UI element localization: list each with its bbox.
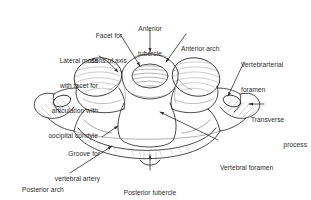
label-line: foramen: [241, 86, 309, 94]
label-line: Vertebrarterial: [241, 61, 309, 69]
label-line: Anterior: [126, 25, 174, 33]
label-posterior-tubercle: Posterior tubercle: [113, 172, 187, 200]
label-line: articulation with: [6, 107, 98, 115]
label-vertebral-foramen: Vertebral foramen: [220, 147, 296, 189]
label-line: Posterior arch: [22, 186, 84, 194]
anatomical-figure: Lateral mass with facet for articulation…: [0, 0, 311, 200]
label-posterior-arch: Posterior arch: [22, 169, 84, 200]
leader-groove-vertebral-artery: [102, 126, 118, 137]
label-line: tubercle: [126, 50, 174, 58]
label-line: Groove for: [18, 150, 100, 158]
label-line: Vertebral foramen: [220, 164, 296, 172]
label-line: Anterior arch: [181, 45, 243, 53]
label-anterior-tubercle: Anterior tubercle: [126, 8, 174, 75]
label-anterior-arch: Anterior arch: [181, 28, 243, 70]
label-line: Posterior tubercle: [113, 189, 187, 197]
label-line: Transverse: [251, 116, 307, 124]
leader-vertebral-foramen: [160, 112, 218, 140]
label-line: with facet for: [6, 82, 98, 90]
